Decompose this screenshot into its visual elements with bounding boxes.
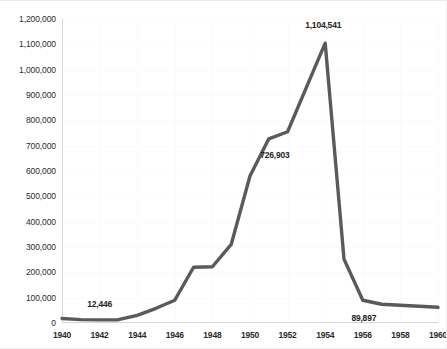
y-axis-tick-label: 600,000 <box>26 166 56 176</box>
gridline-horizontal <box>62 323 438 324</box>
x-axis-tick-label: 1942 <box>91 330 109 340</box>
data-point-label: 726,903 <box>260 150 289 160</box>
gridline-vertical <box>438 19 439 323</box>
series-line-cases <box>62 19 438 323</box>
x-axis-tick-label: 1952 <box>279 330 297 340</box>
x-axis-tick-label: 1946 <box>166 330 184 340</box>
x-axis-tick-label: 1944 <box>128 330 146 340</box>
x-axis-tick-label: 1940 <box>53 330 71 340</box>
y-axis-tick-label: 800,000 <box>26 115 56 125</box>
y-axis-tick-label: 100,000 <box>26 293 56 303</box>
plot-frame: 0100,000200,000300,000400,000500,000600,… <box>62 19 438 323</box>
y-axis-tick-label: 900,000 <box>26 90 56 100</box>
y-axis-tick-label: 1,200,000 <box>19 14 56 24</box>
data-point-label: 89,897 <box>351 313 376 323</box>
y-axis-tick-label: 300,000 <box>26 242 56 252</box>
x-axis-tick-label: 1956 <box>354 330 372 340</box>
y-axis-tick-label: 400,000 <box>26 217 56 227</box>
chart-container: 0100,000200,000300,000400,000500,000600,… <box>0 0 447 349</box>
x-axis-tick-label: 1954 <box>316 330 334 340</box>
data-point-label: 12,446 <box>87 299 112 309</box>
y-axis-tick-label: 1,000,000 <box>19 65 56 75</box>
x-axis-tick-label: 1950 <box>241 330 259 340</box>
x-axis-tick-label: 1948 <box>203 330 221 340</box>
x-axis-tick-label: 1958 <box>391 330 409 340</box>
y-axis-tick-label: 1,100,000 <box>19 39 56 49</box>
y-axis-tick-label: 500,000 <box>26 191 56 201</box>
y-axis-tick-label: 0 <box>51 318 56 328</box>
data-point-label: 1,104,541 <box>305 20 341 30</box>
y-axis-tick-label: 700,000 <box>26 141 56 151</box>
plot-area: 0100,000200,000300,000400,000500,000600,… <box>62 19 438 323</box>
x-axis-tick-label: 1960 <box>429 330 447 340</box>
y-axis-tick-label: 200,000 <box>26 267 56 277</box>
